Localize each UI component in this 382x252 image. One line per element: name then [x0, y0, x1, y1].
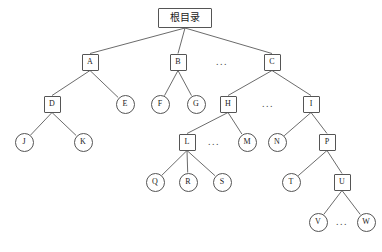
- tree-node-label: U: [339, 178, 345, 186]
- tree-node-r[interactable]: R: [179, 173, 198, 192]
- tree-node-m[interactable]: M: [238, 133, 257, 152]
- tree-node-j[interactable]: J: [15, 133, 34, 152]
- tree-node-label: R: [185, 178, 190, 186]
- tree-node-p[interactable]: P: [319, 134, 336, 151]
- tree-node-label: J: [22, 138, 25, 146]
- tree-node-label: N: [274, 138, 280, 146]
- tree-node-label: C: [269, 58, 274, 66]
- node-layer: 根目录ABCDEFGHIJKLMNPQRSTUVW............: [0, 0, 382, 252]
- tree-diagram: 根目录ABCDEFGHIJKLMNPQRSTUVW............: [0, 0, 382, 252]
- tree-node-label: H: [225, 100, 231, 108]
- tree-node-label: 根目录: [170, 13, 200, 23]
- tree-node-label: P: [325, 138, 329, 146]
- tree-node-d[interactable]: D: [44, 96, 61, 113]
- ellipsis-c-children: ...: [258, 99, 278, 109]
- tree-node-label: V: [315, 218, 321, 226]
- tree-node-label: I: [310, 100, 313, 108]
- tree-node-f[interactable]: F: [151, 95, 170, 114]
- tree-node-label: W: [362, 218, 370, 226]
- tree-node-label: G: [193, 100, 199, 108]
- tree-node-u[interactable]: U: [334, 174, 351, 191]
- tree-node-label: L: [185, 138, 190, 146]
- tree-node-a[interactable]: A: [82, 54, 99, 71]
- tree-node-k[interactable]: K: [74, 133, 93, 152]
- tree-node-e[interactable]: E: [116, 95, 135, 114]
- tree-node-label: F: [158, 100, 162, 108]
- tree-node-b[interactable]: B: [170, 54, 187, 71]
- tree-node-c[interactable]: C: [264, 54, 281, 71]
- ellipsis-h-children: ...: [204, 137, 224, 147]
- tree-node-n[interactable]: N: [268, 133, 287, 152]
- tree-node-label: A: [87, 58, 93, 66]
- tree-node-label: Q: [152, 178, 158, 186]
- tree-node-v[interactable]: V: [309, 213, 328, 232]
- ellipsis-u-children: ...: [332, 217, 352, 227]
- tree-node-i[interactable]: I: [303, 96, 320, 113]
- tree-node-label: B: [175, 58, 180, 66]
- tree-node-label: D: [49, 100, 55, 108]
- tree-node-label: S: [220, 178, 224, 186]
- tree-node-label: T: [289, 178, 294, 186]
- tree-node-s[interactable]: S: [213, 173, 232, 192]
- tree-node-label: E: [123, 100, 128, 108]
- tree-node-g[interactable]: G: [187, 95, 206, 114]
- tree-node-h[interactable]: H: [220, 96, 237, 113]
- tree-node-t[interactable]: T: [282, 173, 301, 192]
- tree-node-label: K: [80, 138, 86, 146]
- tree-node-root[interactable]: 根目录: [158, 8, 212, 28]
- tree-node-q[interactable]: Q: [146, 173, 165, 192]
- tree-node-l[interactable]: L: [179, 134, 196, 151]
- tree-node-w[interactable]: W: [357, 213, 376, 232]
- ellipsis-root-level2: ...: [212, 57, 232, 67]
- tree-node-label: M: [243, 138, 250, 146]
